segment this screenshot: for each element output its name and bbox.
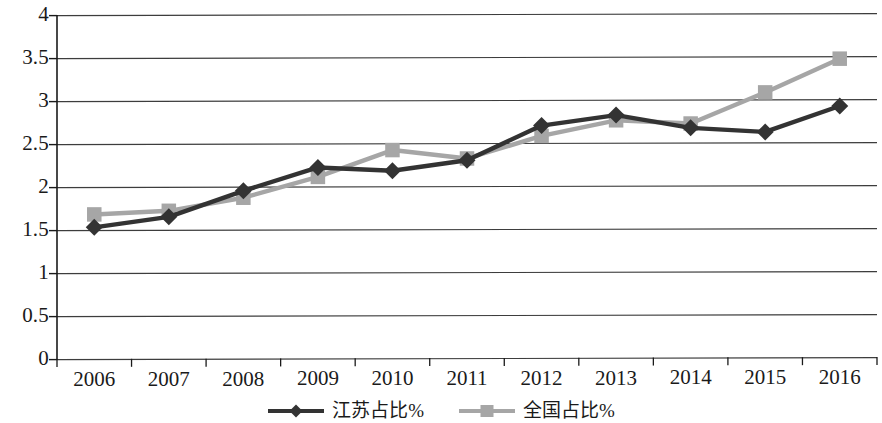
gridlines bbox=[57, 14, 877, 360]
x-axis-tick-label: 2008 bbox=[206, 369, 281, 390]
x-axis-tick-label: 2011 bbox=[430, 368, 505, 389]
x-axis-tick-label: 2010 bbox=[355, 368, 430, 389]
y-axis-tick-label: 2 bbox=[38, 176, 49, 197]
line-chart: 00.511.522.533.54 2006200720082009201020… bbox=[0, 0, 882, 423]
y-axis-tick-label: 4 bbox=[38, 4, 49, 25]
legend-item-national: 全国占比% bbox=[458, 401, 615, 420]
x-axis-tick-label: 2014 bbox=[653, 367, 728, 388]
y-axis-tick-label: 1.5 bbox=[22, 219, 49, 240]
y-axis-tick-label: 3.5 bbox=[22, 47, 49, 68]
x-axis-tick-label: 2007 bbox=[132, 369, 207, 390]
y-axis-tick-label: 3 bbox=[38, 90, 49, 111]
y-axis-tick-label: 0 bbox=[38, 348, 49, 369]
chart-plot-area bbox=[0, 0, 882, 423]
y-axis-tick-label: 0.5 bbox=[22, 305, 49, 326]
y-axis-tick-label: 2.5 bbox=[22, 133, 49, 154]
y-axis-tick-marks bbox=[49, 16, 57, 360]
x-axis-tick-label: 2016 bbox=[802, 367, 877, 388]
chart-legend: 江苏占比% 全国占比% bbox=[0, 398, 882, 423]
x-axis-tick-label: 2012 bbox=[504, 368, 579, 389]
legend-label-national: 全国占比% bbox=[523, 401, 615, 420]
x-axis-tick-label: 2013 bbox=[579, 368, 654, 389]
legend-marker-square-icon bbox=[458, 403, 516, 419]
x-axis-tick-label: 2015 bbox=[728, 367, 803, 388]
legend-label-jiangsu: 江苏占比% bbox=[332, 401, 424, 420]
x-axis-tick-label: 2006 bbox=[57, 369, 132, 390]
series-line-jiangsu bbox=[86, 97, 848, 235]
legend-marker-diamond-icon bbox=[267, 403, 325, 419]
series-line-national bbox=[87, 51, 847, 221]
x-axis-tick-label: 2009 bbox=[281, 368, 356, 389]
y-axis-tick-label: 1 bbox=[38, 262, 49, 283]
legend-item-jiangsu: 江苏占比% bbox=[267, 401, 424, 420]
